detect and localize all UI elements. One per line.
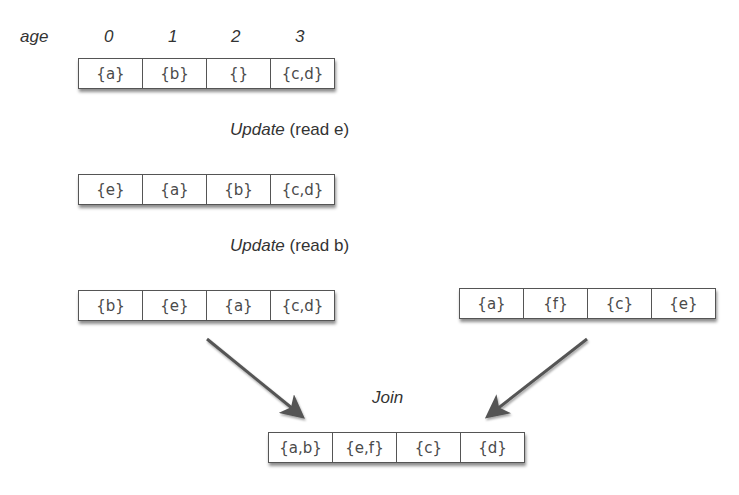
operation-name: Update (230, 120, 285, 139)
operation-detail: (read b) (290, 236, 350, 255)
cache-row-after-update-2: {b} {e} {a} {c,d} (78, 290, 335, 321)
cache-cell: {e} (142, 290, 207, 321)
update-label-2: Update (read b) (230, 236, 349, 256)
cache-cell: {e,f} (332, 432, 397, 463)
age-index: 2 (231, 27, 240, 47)
join-arrow-right-icon (492, 339, 587, 413)
age-index: 0 (104, 27, 113, 47)
operation-name: Join (372, 388, 403, 407)
cache-row-initial: {a} {b} {} {c,d} (78, 58, 335, 89)
cache-cell: {a} (206, 290, 271, 321)
cache-cell: {e} (651, 288, 716, 319)
cache-row-joined: {a,b} {e,f} {c} {d} (268, 432, 525, 463)
update-label-1: Update (read e) (230, 120, 349, 140)
cache-cell: {b} (142, 58, 207, 89)
cache-cell: {a,b} (268, 432, 333, 463)
age-index: 3 (295, 27, 304, 47)
operation-name: Update (230, 236, 285, 255)
operation-detail: (read e) (290, 120, 350, 139)
cache-row-after-update-1: {e} {a} {b} {c,d} (78, 174, 335, 205)
cache-cell: {} (206, 58, 271, 89)
cache-cell: {e} (78, 174, 143, 205)
cache-cell: {f} (523, 288, 588, 319)
cache-cell: {a} (142, 174, 207, 205)
age-index: 1 (168, 27, 177, 47)
cache-cell: {b} (78, 290, 143, 321)
cache-cell: {c,d} (270, 58, 335, 89)
join-arrow-left-icon (207, 339, 298, 413)
cache-cell: {c,d} (270, 290, 335, 321)
cache-cell: {c} (587, 288, 652, 319)
cache-cell: {a} (459, 288, 524, 319)
join-label: Join (372, 388, 403, 408)
cache-cell: {c} (396, 432, 461, 463)
cache-cell: {c,d} (270, 174, 335, 205)
cache-cell: {a} (78, 58, 143, 89)
cache-cell: {b} (206, 174, 271, 205)
cache-cell: {d} (460, 432, 525, 463)
age-label: age (20, 27, 48, 47)
cache-row-other: {a} {f} {c} {e} (459, 288, 716, 319)
